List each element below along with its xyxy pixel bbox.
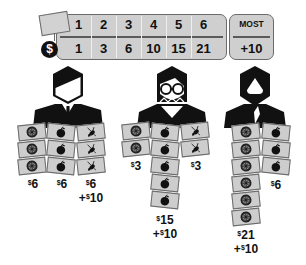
set-size-cell: 2 — [91, 17, 116, 33]
apple-icon — [158, 193, 171, 206]
wheel-card — [17, 123, 47, 142]
apple-icon — [54, 159, 67, 172]
set-size-cell: 6 — [191, 17, 216, 33]
wheel-card — [17, 140, 47, 159]
p2-beetle-score: $3 — [176, 159, 216, 173]
most-divider — [233, 36, 270, 38]
p2-apple-score: $15 — [145, 213, 185, 227]
p3-wheel-score: $21 — [226, 228, 266, 242]
apple-card — [261, 123, 291, 142]
beetle-card — [76, 123, 106, 142]
apple-icon — [269, 125, 282, 138]
apple-icon — [269, 159, 282, 172]
points-cell: 15 — [166, 41, 191, 57]
wheel-card — [231, 157, 261, 176]
apple-icon — [54, 125, 67, 138]
apple-card — [46, 140, 76, 159]
beetle-card — [76, 157, 106, 176]
hooded-figure-avatar — [214, 62, 296, 128]
wheel-icon — [25, 159, 38, 172]
wheel-card — [231, 191, 261, 210]
set-size-cell: 5 — [166, 17, 191, 33]
wheel-card — [121, 122, 151, 141]
apple-card — [150, 140, 180, 159]
p1-beetle-bonus: +$10 — [71, 191, 111, 205]
wheel-icon — [239, 125, 252, 138]
set-size-cell: 3 — [116, 17, 141, 33]
p3-wheel-bonus: +$10 — [226, 242, 266, 256]
points-cell: 6 — [116, 41, 141, 57]
beetle-card — [180, 139, 210, 158]
wheel-icon — [25, 142, 38, 155]
beetle-card — [76, 140, 106, 159]
dollar-coin-icon: $ — [41, 41, 58, 58]
apple-icon — [54, 142, 67, 155]
wheel-icon — [239, 210, 252, 223]
tag-string — [54, 33, 55, 41]
apple-card — [46, 123, 76, 142]
wheel-icon — [129, 124, 142, 137]
wheel-icon — [239, 193, 252, 206]
wheel-icon — [239, 176, 252, 189]
beetle-icon — [188, 141, 201, 154]
apple-icon — [158, 125, 171, 138]
apple-icon — [269, 142, 282, 155]
apple-icon — [158, 159, 171, 172]
set-size-cell: 1 — [66, 17, 91, 33]
apple-card — [46, 157, 76, 176]
p1-beetle-score: $6 — [71, 177, 111, 191]
beetle-card — [180, 122, 210, 141]
man-in-suit-avatar — [27, 62, 109, 128]
p2-apple-bonus: +$10 — [145, 227, 185, 241]
beetle-icon — [84, 142, 97, 155]
beetle-icon — [188, 124, 201, 137]
points-cell: 3 — [91, 41, 116, 57]
points-cell: 10 — [141, 41, 166, 57]
woman-with-glasses-avatar — [131, 62, 213, 128]
beetle-icon — [84, 159, 97, 172]
wheel-card — [17, 157, 47, 176]
most-label: MOST — [229, 19, 274, 29]
apple-card — [150, 123, 180, 142]
apple-card — [150, 191, 180, 210]
p3-apple-score: $6 — [256, 178, 296, 192]
p2-wheel-score: $3 — [116, 159, 156, 173]
points-cell: 21 — [191, 41, 216, 57]
apple-card — [150, 174, 180, 193]
most-bonus-value: +10 — [229, 41, 274, 56]
apple-icon — [158, 176, 171, 189]
wheel-card — [121, 139, 151, 158]
wheel-icon — [239, 159, 252, 172]
wheel-icon — [129, 141, 142, 154]
wheel-card — [231, 123, 261, 142]
wheel-card — [231, 140, 261, 159]
wheel-card — [231, 208, 261, 227]
apple-card — [261, 140, 291, 159]
beetle-icon — [84, 125, 97, 138]
points-cell: 1 — [66, 41, 91, 57]
apple-icon — [158, 142, 171, 155]
set-size-cell: 4 — [141, 17, 166, 33]
wheel-icon — [25, 125, 38, 138]
wheel-icon — [239, 142, 252, 155]
apple-card — [261, 157, 291, 176]
